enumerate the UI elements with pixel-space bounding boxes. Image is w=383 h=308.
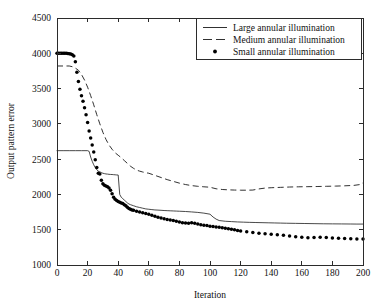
data-point: [233, 228, 237, 232]
data-point: [208, 224, 212, 228]
data-point: [217, 225, 221, 229]
data-point: [202, 223, 206, 227]
y-axis-tick-labels: 10001500200025003000350040004500: [32, 13, 51, 270]
y-tick-label: 3500: [32, 84, 51, 94]
x-tick-label: 0: [55, 268, 60, 278]
data-point: [184, 221, 188, 225]
data-point: [337, 237, 341, 241]
x-tick-label: 180: [325, 268, 340, 278]
x-axis-tick-labels: 020406080100120140160180200: [55, 268, 371, 278]
data-point: [132, 209, 136, 213]
data-point: [89, 136, 93, 140]
data-point: [156, 216, 160, 220]
data-point: [306, 236, 310, 240]
x-tick-label: 80: [175, 268, 185, 278]
data-point: [77, 80, 81, 84]
y-tick-label: 1000: [32, 260, 51, 270]
data-point: [175, 220, 179, 224]
data-point: [87, 129, 91, 133]
y-tick-label: 1500: [32, 225, 51, 235]
x-tick-label: 160: [295, 268, 310, 278]
x-tick-label: 100: [203, 268, 218, 278]
data-point: [245, 230, 249, 234]
y-axis-title: Output pattern error: [6, 102, 16, 179]
data-point: [135, 210, 139, 214]
data-point: [239, 229, 243, 233]
data-point: [187, 221, 191, 225]
y-tick-label: 4500: [32, 13, 51, 23]
data-point: [86, 121, 90, 125]
y-tick-label: 4000: [32, 49, 51, 59]
data-point: [196, 222, 200, 226]
data-point: [162, 217, 166, 221]
data-point: [343, 237, 347, 241]
data-point: [159, 216, 163, 220]
data-point: [168, 218, 172, 222]
data-point: [300, 236, 304, 240]
data-point: [153, 215, 157, 219]
data-point: [138, 210, 142, 214]
data-point: [98, 172, 102, 176]
legend-label-small: Small annular illumination: [233, 47, 335, 57]
data-point: [227, 227, 231, 231]
data-point: [220, 226, 224, 230]
chart-svg: 020406080100120140160180200 100015002000…: [0, 0, 383, 308]
data-point: [251, 231, 255, 235]
data-point: [100, 179, 104, 183]
x-tick-label: 120: [233, 268, 248, 278]
data-point: [331, 236, 335, 240]
data-point: [214, 225, 218, 229]
legend-label-large: Large annular illumination: [233, 23, 335, 33]
x-tick-label: 140: [264, 268, 279, 278]
data-point: [355, 237, 359, 241]
data-point: [90, 143, 94, 147]
legend-label-medium: Medium annular illumination: [233, 35, 345, 45]
data-point: [81, 100, 85, 104]
x-tick-label: 60: [144, 268, 154, 278]
x-axis-title: Iteration: [194, 290, 226, 300]
data-point: [94, 158, 98, 162]
data-point: [257, 231, 261, 235]
data-point: [110, 192, 114, 196]
x-tick-label: 200: [356, 268, 371, 278]
data-point: [312, 236, 316, 240]
data-point: [178, 220, 182, 224]
x-tick-label: 40: [113, 268, 123, 278]
data-point: [236, 229, 240, 233]
data-point: [75, 71, 79, 75]
data-point: [80, 94, 84, 98]
data-point: [325, 236, 329, 240]
data-point: [109, 188, 113, 192]
data-point: [269, 233, 273, 237]
data-point: [349, 237, 353, 241]
data-point: [199, 223, 203, 227]
data-point: [211, 225, 215, 229]
x-tick-label: 20: [83, 268, 93, 278]
data-point: [282, 234, 286, 238]
data-point: [193, 222, 197, 226]
chart-figure: 020406080100120140160180200 100015002000…: [0, 0, 383, 308]
data-point: [172, 219, 176, 223]
data-point: [141, 211, 145, 215]
data-point: [230, 228, 234, 232]
data-point: [92, 150, 96, 154]
legend[interactable]: Large annular illumination Medium annula…: [196, 18, 361, 59]
data-point: [288, 234, 292, 238]
data-point: [72, 54, 76, 58]
data-point: [224, 227, 228, 231]
data-point: [165, 218, 169, 222]
y-tick-label: 2500: [32, 155, 51, 165]
data-point: [263, 232, 267, 236]
data-point: [150, 214, 154, 218]
data-point: [95, 166, 99, 170]
data-point: [83, 106, 87, 110]
data-point: [78, 88, 82, 92]
data-point: [144, 212, 148, 216]
data-point: [147, 213, 151, 217]
legend-swatch-dot: [213, 50, 217, 54]
data-point: [84, 113, 88, 117]
data-point: [181, 221, 185, 225]
data-point: [190, 221, 194, 225]
data-point: [318, 236, 322, 240]
data-point: [276, 233, 280, 237]
